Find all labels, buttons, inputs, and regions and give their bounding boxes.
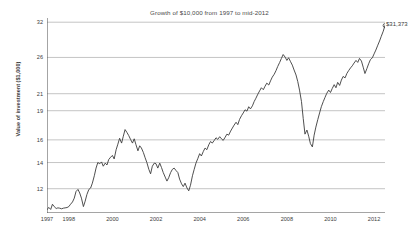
data-line-series bbox=[47, 26, 385, 210]
y-axis-label: Value of investment ($1,000) bbox=[15, 34, 21, 164]
y-tick-label: 12 bbox=[37, 186, 43, 192]
y-tick-label: 14 bbox=[37, 160, 43, 166]
y-tick-label: 21 bbox=[37, 91, 43, 97]
endpoint-value-annotation: $31,373 bbox=[386, 21, 408, 27]
plot-area bbox=[47, 18, 385, 213]
x-tick-label: 2010 bbox=[324, 216, 336, 222]
x-tick-label: 2012 bbox=[368, 216, 380, 222]
y-tick-label: 32 bbox=[37, 19, 43, 25]
chart-container: Growth of $10,000 from 1997 to mid-2012 … bbox=[0, 0, 419, 245]
x-tick-label: 2000 bbox=[106, 216, 118, 222]
y-tick-label: 19 bbox=[37, 108, 43, 114]
x-axis-tick-labels: 199719982000200220042006200820102012 bbox=[47, 216, 385, 228]
x-tick-label: 2004 bbox=[193, 216, 205, 222]
x-tick-label: 1998 bbox=[63, 216, 75, 222]
y-axis-tick-labels: 32262119161412 bbox=[26, 18, 43, 213]
x-tick-label: 2006 bbox=[237, 216, 249, 222]
x-tick-label: 2008 bbox=[281, 216, 293, 222]
chart-title: Growth of $10,000 from 1997 to mid-2012 bbox=[0, 9, 419, 16]
x-tick-label: 2002 bbox=[150, 216, 162, 222]
y-tick-label: 16 bbox=[37, 137, 43, 143]
y-tick-label: 26 bbox=[37, 54, 43, 60]
chart-svg bbox=[47, 18, 385, 213]
x-tick-label: 1997 bbox=[41, 216, 53, 222]
